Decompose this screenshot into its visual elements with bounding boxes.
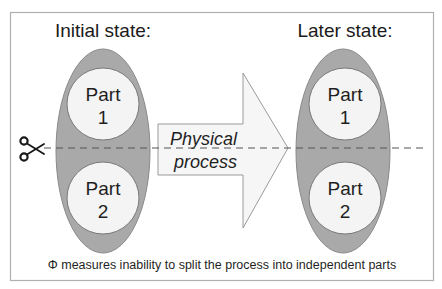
initial-state-system: Part 1 Part 2: [56, 49, 150, 253]
later-state-system: Part 1 Part 2: [296, 49, 390, 253]
initial-part-1: Part 1: [67, 68, 139, 140]
later-part-2-number: 2: [340, 201, 351, 222]
initial-part-2-label: Part: [86, 178, 122, 199]
later-part-1-number: 1: [340, 107, 351, 128]
process-label-line2: process: [173, 152, 237, 172]
initial-part-1-number: 1: [98, 107, 109, 128]
later-part-1: Part 1: [309, 68, 381, 140]
later-part-1-label: Part: [328, 84, 364, 105]
later-state-title: Later state:: [297, 20, 392, 41]
later-part-2-label: Part: [328, 178, 364, 199]
initial-part-2-number: 2: [98, 201, 109, 222]
initial-state-title: Initial state:: [55, 20, 151, 41]
process-label-line1: Physical: [170, 129, 238, 149]
phi-caption: Φ measures inability to split the proces…: [48, 258, 396, 272]
initial-part-1-label: Part: [86, 84, 122, 105]
integrated-information-diagram: Initial state: Later state: Part 1 Part …: [0, 0, 442, 289]
later-part-2: Part 2: [309, 162, 381, 234]
initial-part-2: Part 2: [67, 162, 139, 234]
